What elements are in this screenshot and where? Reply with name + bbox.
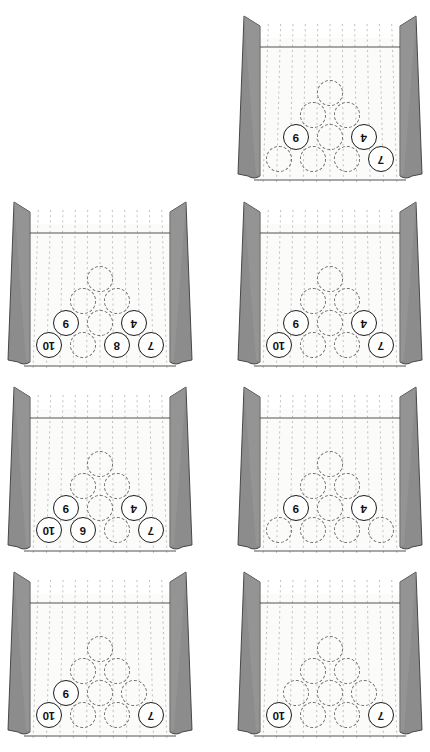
- pin-knocked-down[interactable]: [266, 146, 292, 172]
- pin-number-label: 7: [139, 703, 163, 727]
- pin-knocked-down[interactable]: [334, 517, 360, 543]
- pin-knocked-down[interactable]: [300, 332, 326, 358]
- pin-number-label: 10: [37, 333, 61, 357]
- pin-knocked-down[interactable]: [317, 80, 343, 106]
- pin-standing[interactable]: 7: [138, 517, 164, 543]
- pin-deck-panel[interactable]: 941087: [0, 194, 200, 380]
- pin-deck-panel[interactable]: 941067: [0, 379, 200, 565]
- pin-knocked-down[interactable]: [368, 517, 394, 543]
- pin-number-label: 6: [71, 518, 95, 542]
- pin-standing[interactable]: 8: [104, 332, 130, 358]
- pin-number-label: 7: [139, 333, 163, 357]
- pin-knocked-down[interactable]: [300, 146, 326, 172]
- pin-number-label: 7: [139, 518, 163, 542]
- pin-deck-panel[interactable]: 94107: [230, 194, 430, 380]
- pin-standing[interactable]: 9: [283, 495, 309, 521]
- pin-knocked-down[interactable]: [334, 332, 360, 358]
- pin-deck-panel[interactable]: 107: [230, 564, 430, 750]
- pin-standing[interactable]: 7: [138, 332, 164, 358]
- pin-knocked-down[interactable]: [317, 266, 343, 292]
- pin-deck-panel[interactable]: 947: [230, 8, 430, 194]
- pin-standing[interactable]: 7: [368, 146, 394, 172]
- pin-number-label: 10: [267, 333, 291, 357]
- pin-standing[interactable]: 10: [36, 332, 62, 358]
- pin-number-label: 8: [105, 333, 129, 357]
- pin-number-label: 4: [352, 496, 376, 520]
- pin-deck-panel[interactable]: 9107: [0, 564, 200, 750]
- pin-standing[interactable]: 6: [70, 517, 96, 543]
- pin-number-label: 7: [369, 147, 393, 171]
- figure-canvas: 94794108794107941067949107107: [0, 0, 430, 752]
- pin-knocked-down[interactable]: [266, 517, 292, 543]
- pin-standing[interactable]: 10: [36, 517, 62, 543]
- pin-standing[interactable]: 7: [368, 702, 394, 728]
- pin-standing[interactable]: 10: [266, 332, 292, 358]
- pin-knocked-down[interactable]: [87, 680, 113, 706]
- pin-number-label: 4: [122, 311, 146, 335]
- pin-knocked-down[interactable]: [317, 451, 343, 477]
- pin-knocked-down[interactable]: [317, 495, 343, 521]
- pin-number-label: 9: [284, 125, 308, 149]
- pin-standing[interactable]: 10: [36, 702, 62, 728]
- pin-number-label: 9: [54, 496, 78, 520]
- pin-knocked-down[interactable]: [334, 658, 360, 684]
- pin-knocked-down[interactable]: [87, 266, 113, 292]
- pin-knocked-down[interactable]: [300, 702, 326, 728]
- pin-number-label: 4: [352, 125, 376, 149]
- pin-knocked-down[interactable]: [317, 680, 343, 706]
- pin-knocked-down[interactable]: [317, 636, 343, 662]
- pin-knocked-down[interactable]: [70, 702, 96, 728]
- pin-knocked-down[interactable]: [317, 310, 343, 336]
- pin-number-label: 9: [54, 681, 78, 705]
- pin-knocked-down[interactable]: [300, 517, 326, 543]
- pin-number-label: 10: [37, 518, 61, 542]
- pin-number-label: 7: [369, 333, 393, 357]
- pin-number-label: 10: [267, 703, 291, 727]
- pin-knocked-down[interactable]: [300, 658, 326, 684]
- pin-number-label: 9: [54, 311, 78, 335]
- pin-standing[interactable]: 7: [138, 702, 164, 728]
- pin-number-label: 7: [369, 703, 393, 727]
- pin-knocked-down[interactable]: [87, 636, 113, 662]
- pin-number-label: 4: [352, 311, 376, 335]
- pin-number-label: 9: [284, 311, 308, 335]
- pin-knocked-down[interactable]: [104, 658, 130, 684]
- pin-knocked-down[interactable]: [104, 702, 130, 728]
- pin-knocked-down[interactable]: [334, 702, 360, 728]
- pin-standing[interactable]: 4: [351, 495, 377, 521]
- pin-number-label: 10: [37, 703, 61, 727]
- pin-knocked-down[interactable]: [104, 517, 130, 543]
- pin-knocked-down[interactable]: [317, 124, 343, 150]
- pin-number-label: 9: [284, 496, 308, 520]
- pin-standing[interactable]: 10: [266, 702, 292, 728]
- pin-deck-panel[interactable]: 94: [230, 379, 430, 565]
- pin-knocked-down[interactable]: [70, 332, 96, 358]
- pin-knocked-down[interactable]: [334, 146, 360, 172]
- pin-number-label: 4: [122, 496, 146, 520]
- pin-standing[interactable]: 9: [283, 124, 309, 150]
- pin-standing[interactable]: 7: [368, 332, 394, 358]
- pin-knocked-down[interactable]: [87, 451, 113, 477]
